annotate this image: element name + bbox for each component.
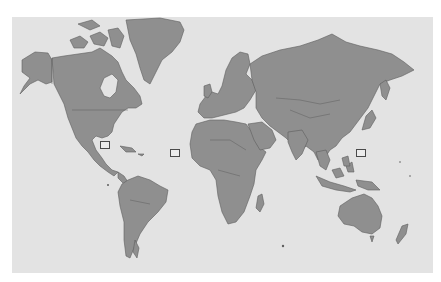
land-australia: [338, 194, 382, 234]
land-north-america: [52, 48, 142, 176]
map-marker-gulf-of-mexico[interactable]: [100, 141, 110, 149]
land-india: [288, 130, 308, 160]
land-philippines: [342, 156, 350, 166]
land-caribbean: [120, 146, 144, 156]
land-southeast-asia: [316, 150, 356, 192]
land-south-america: [118, 176, 168, 258]
world-map: [12, 17, 433, 273]
land-kamchatka: [380, 80, 390, 100]
land-alaska: [20, 52, 52, 94]
land-arctic-islands: [70, 20, 124, 48]
land-greenland: [126, 18, 184, 84]
land-madagascar: [256, 194, 264, 212]
map-marker-western-pacific[interactable]: [356, 149, 366, 157]
map-marker-atlantic[interactable]: [170, 149, 180, 157]
land-new-guinea: [356, 180, 380, 190]
land-tasmania: [370, 236, 374, 242]
land-new-zealand: [396, 224, 408, 244]
world-map-land: [12, 17, 433, 273]
